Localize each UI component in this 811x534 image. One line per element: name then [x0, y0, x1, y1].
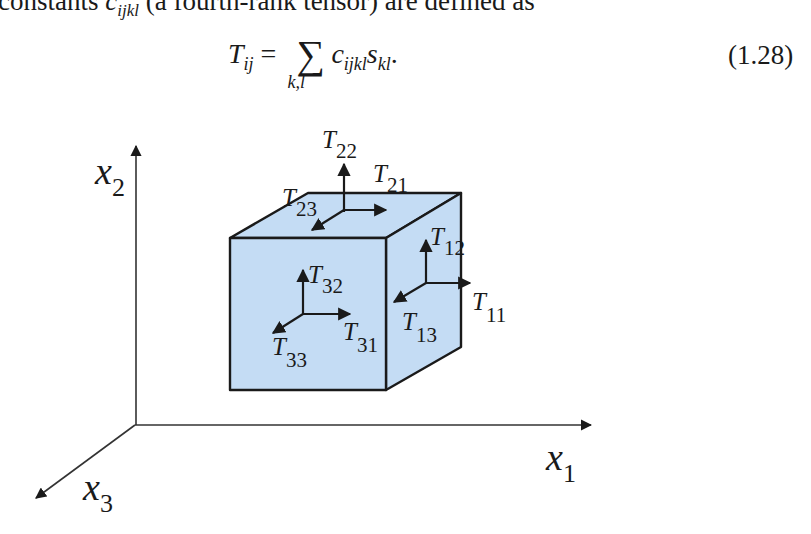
label-t11: T11 — [472, 288, 506, 327]
x1-label: x1 — [545, 436, 576, 488]
cube — [230, 193, 461, 390]
x2-label: x2 — [94, 150, 125, 202]
x3-label: x3 — [82, 466, 113, 518]
label-t21: T21 — [373, 160, 408, 197]
label-t22: T22 — [322, 126, 357, 163]
stress-cube-figure: x2 x1 x3 T22 T21 T23 T12 T11 T13 T32 T31… — [0, 0, 811, 534]
